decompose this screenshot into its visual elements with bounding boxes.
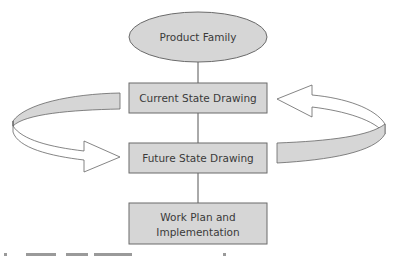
clipped-caption <box>0 250 394 256</box>
node-product-family: Product Family <box>129 12 267 62</box>
node-label-line1: Work Plan and <box>160 211 235 223</box>
node-work-plan: Work Plan and Implementation <box>129 203 267 244</box>
node-label: Current State Drawing <box>139 92 257 104</box>
right-cycle-arrow-icon <box>277 85 385 163</box>
left-cycle-arrow-icon <box>13 93 120 172</box>
node-label: Future State Drawing <box>142 152 254 164</box>
node-current-state: Current State Drawing <box>129 83 267 113</box>
flowchart-diagram: Product Family Current State Drawing Fut… <box>0 0 394 256</box>
node-label: Product Family <box>160 31 237 43</box>
node-future-state: Future State Drawing <box>129 143 267 173</box>
node-label-line2: Implementation <box>156 226 239 238</box>
